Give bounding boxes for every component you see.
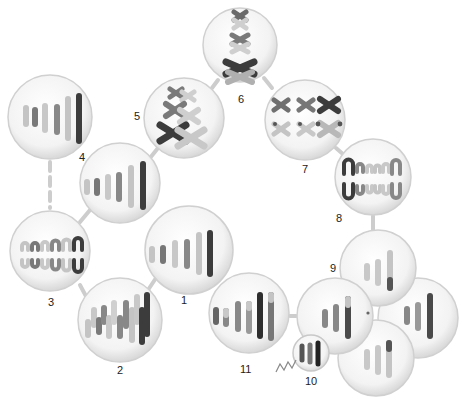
cell-4b (8, 75, 92, 159)
flagellum-tail (276, 360, 296, 372)
label-11: 11 (240, 363, 251, 375)
cell-5 (144, 78, 224, 158)
connector-5-6 (212, 80, 218, 88)
connector-6-7 (264, 78, 272, 88)
cell-8 (335, 139, 411, 215)
connector-3-4 (80, 210, 90, 222)
cell-10 (276, 335, 329, 372)
label-9: 9 (330, 262, 336, 274)
cell-7 (265, 80, 345, 160)
cell-cycle-diagram: 1 2 3 4 5 6 7 8 9 10 11 (0, 0, 464, 400)
cell-4 (80, 143, 160, 223)
label-7: 7 (302, 163, 308, 175)
cell-6 (203, 8, 277, 82)
label-6: 6 (238, 93, 244, 105)
label-2: 2 (117, 364, 123, 376)
label-3: 3 (48, 296, 54, 308)
cell-3 (10, 211, 90, 291)
connector-1-2 (148, 278, 156, 290)
cell-11 (209, 273, 289, 353)
connector-4-5 (150, 148, 158, 158)
cell-1 (145, 206, 233, 294)
label-1: 1 (181, 294, 187, 306)
label-8: 8 (336, 212, 342, 224)
label-4: 4 (79, 151, 85, 163)
label-5: 5 (134, 110, 140, 122)
cell-2 (78, 278, 162, 362)
label-10: 10 (305, 375, 317, 387)
